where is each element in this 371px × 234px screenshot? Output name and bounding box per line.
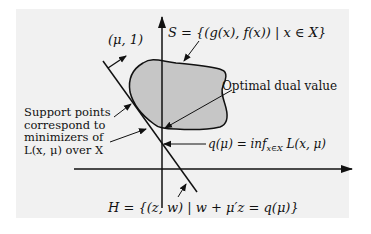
mu-vector-label: (μ, 1): [108, 33, 143, 46]
support-points-label: Support points correspond to minimizers …: [24, 106, 111, 156]
q-mu-main: q(μ) = inf: [208, 137, 267, 151]
dual-function-diagram: (μ, 1) S = {(g(x), f(x)) | x ∈ X} Optima…: [0, 0, 371, 234]
hyperplane-H-label: H = {(z, w) | w + μ′z = q(μ)}: [108, 201, 299, 214]
set-S-label: S = {(g(x), f(x)) | x ∈ X}: [168, 26, 326, 39]
optimal-dual-label: Optimal dual value: [222, 80, 337, 92]
q-mu-subscript: x∈X: [267, 144, 283, 153]
q-mu-tail: L(x, μ): [283, 137, 326, 151]
q-mu-label: q(μ) = infx∈X L(x, μ): [208, 138, 326, 150]
